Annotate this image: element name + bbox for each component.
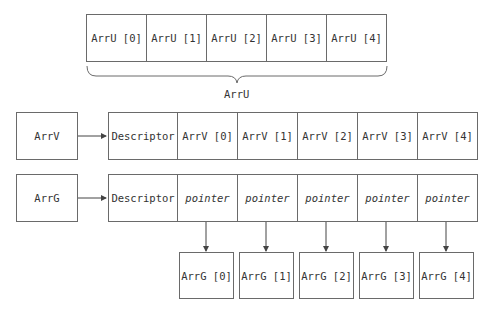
brace-icon <box>87 66 387 83</box>
arrg-target-4: ArrG [4] <box>419 252 474 299</box>
arrg-pointer-3: pointer <box>357 174 418 222</box>
arru-brace-label: ArrU <box>224 88 249 100</box>
arrg-target-2: ArrG [2] <box>299 252 354 299</box>
arrv-cell-0: ArrV [0] <box>177 112 238 160</box>
arru-cell-1: ArrU [1] <box>146 14 207 62</box>
arru-array: ArrU [0] ArrU [1] ArrU [2] ArrU [3] ArrU… <box>86 14 387 62</box>
arru-cell-3: ArrU [3] <box>266 14 327 62</box>
arrg-target-1: ArrG [1] <box>239 252 294 299</box>
arru-cell-0: ArrU [0] <box>86 14 147 62</box>
arrv-cell-2: ArrV [2] <box>297 112 358 160</box>
arrg-pointer-4: pointer <box>417 174 478 222</box>
arrv-box: ArrV <box>16 112 78 160</box>
arrg-target-3: ArrG [3] <box>359 252 414 299</box>
arrv-descriptor: Descriptor <box>108 112 178 160</box>
arrg-pointer-1: pointer <box>237 174 298 222</box>
arrv-cell-1: ArrV [1] <box>237 112 298 160</box>
arrv-cell-3: ArrV [3] <box>357 112 418 160</box>
arrg-descriptor: Descriptor <box>108 174 178 222</box>
arru-cell-4: ArrU [4] <box>326 14 387 62</box>
arrg-target-0: ArrG [0] <box>179 252 234 299</box>
arrg-box: ArrG <box>16 174 78 222</box>
arru-cell-2: ArrU [2] <box>206 14 267 62</box>
arrg-pointer-0: pointer <box>177 174 238 222</box>
arrv-array: Descriptor ArrV [0] ArrV [1] ArrV [2] Ar… <box>108 112 478 160</box>
arrv-cell-4: ArrV [4] <box>417 112 478 160</box>
arrg-pointer-2: pointer <box>297 174 358 222</box>
arrg-array: Descriptor pointer pointer pointer point… <box>108 174 478 222</box>
